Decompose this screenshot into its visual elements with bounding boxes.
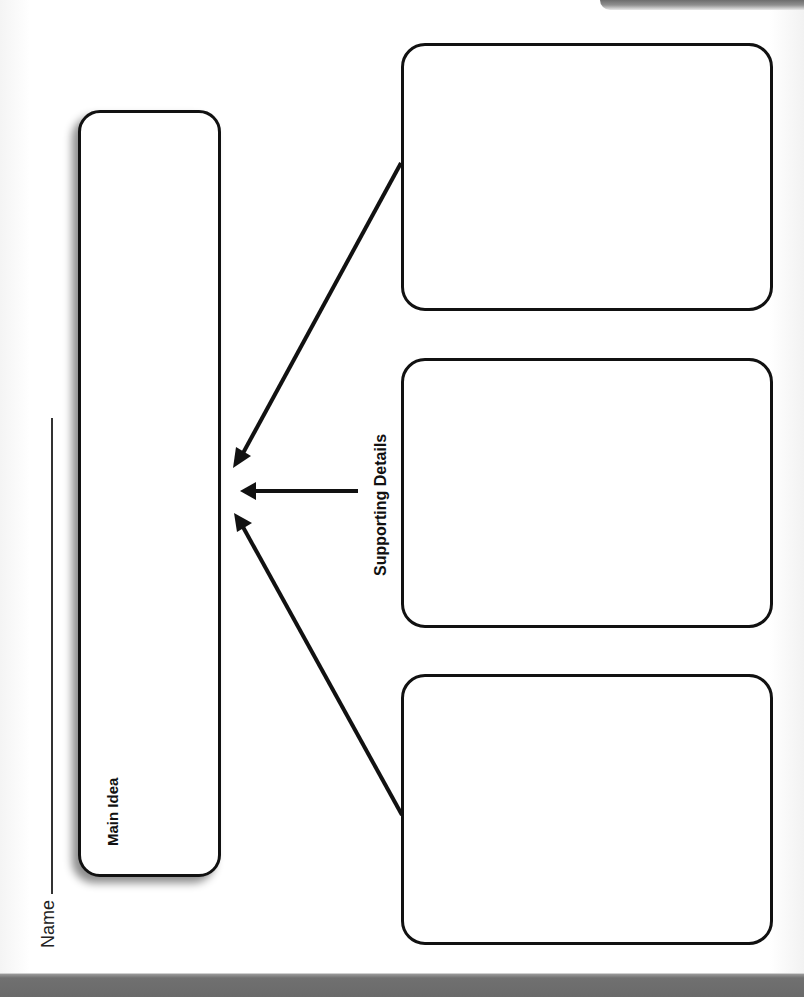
arrow-bottom-to-main-icon xyxy=(234,513,402,815)
arrow-middle-to-main-icon xyxy=(240,482,358,500)
bottom-page-band xyxy=(0,973,804,997)
arrow-top-to-main-icon xyxy=(233,163,401,468)
